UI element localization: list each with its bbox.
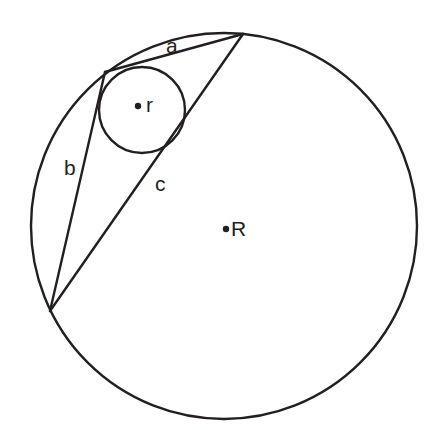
label-circumradius: R	[231, 218, 246, 239]
geometry-figure: a b c r R	[0, 0, 440, 430]
triangle-side-c	[50, 34, 243, 311]
label-side-a: a	[166, 35, 178, 56]
label-side-c: c	[155, 173, 166, 194]
incircle-center-dot	[135, 103, 141, 109]
incircle	[99, 67, 185, 153]
label-side-b: b	[64, 157, 76, 178]
circumcircle-center-dot	[223, 226, 229, 232]
label-inradius: r	[146, 94, 153, 115]
circumcircle	[31, 33, 417, 419]
figure-canvas	[0, 0, 440, 430]
triangle-side-b	[50, 72, 105, 311]
